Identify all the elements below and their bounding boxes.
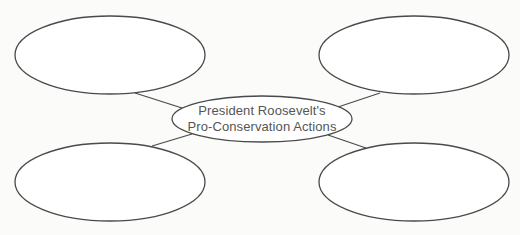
center-topic-line-1: President Roosevelt's: [198, 103, 325, 119]
branch-bottom-left-text[interactable]: [15, 143, 205, 221]
branch-top-right-text[interactable]: [319, 16, 509, 94]
concept-web-diagram: President Roosevelt's Pro-Conservation A…: [0, 0, 520, 235]
center-topic-line-2: Pro-Conservation Actions: [187, 119, 336, 135]
center-topic-label: President Roosevelt's Pro-Conservation A…: [172, 96, 352, 142]
branch-top-left-text[interactable]: [15, 16, 205, 94]
branch-bottom-right-text[interactable]: [319, 143, 509, 221]
